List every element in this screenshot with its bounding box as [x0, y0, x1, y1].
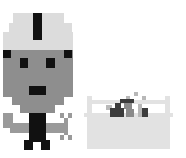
- toolbox-pixel-block: [110, 108, 124, 117]
- toolbox-pixel-block: [87, 117, 170, 149]
- toolbox-sprite: [0, 0, 186, 158]
- toolbox-pixel-block: [142, 96, 146, 100]
- toolbox-pixel-block: [134, 92, 138, 96]
- toolbox-pixel-block: [126, 109, 134, 117]
- toolbox-pixel-block: [142, 108, 148, 117]
